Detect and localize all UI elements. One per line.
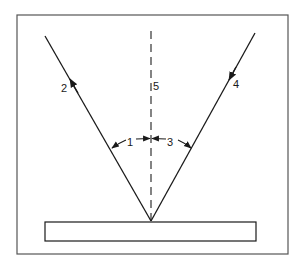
label-angle-3: 3 xyxy=(167,136,173,148)
angle-1-arc-left-arrow-icon xyxy=(112,140,126,148)
angle-1-arc-right-arrow-icon xyxy=(136,139,150,140)
label-normal: 5 xyxy=(153,80,159,92)
reflecting-surface xyxy=(45,222,256,241)
label-angle-1: 1 xyxy=(127,136,133,148)
incident-ray xyxy=(151,33,255,221)
reflected-ray-arrow-icon xyxy=(70,79,78,93)
label-incident-ray: 4 xyxy=(233,78,239,90)
angle-3-arc-left-arrow-icon xyxy=(152,139,166,140)
reflection-diagram: 1 2 3 4 5 xyxy=(0,0,299,266)
label-reflected-ray: 2 xyxy=(61,82,67,94)
reflected-ray xyxy=(45,36,151,221)
angle-3-arc-right-arrow-icon xyxy=(178,140,191,148)
